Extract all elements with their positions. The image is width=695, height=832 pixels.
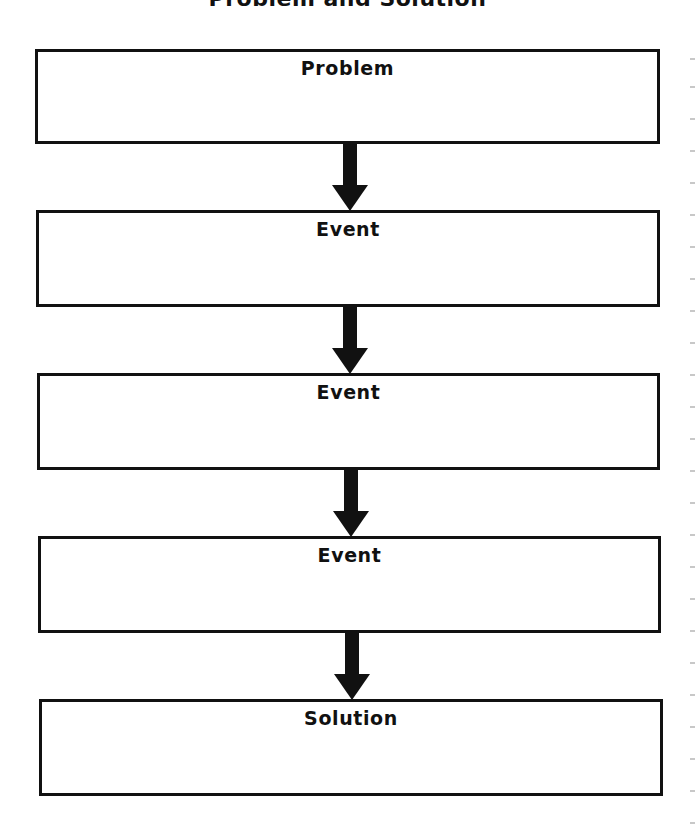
problem-box[interactable]: Problem [35,49,660,144]
page-title: Problem and Solution [0,0,695,12]
event-label-1: Event [39,217,657,241]
solution-label: Solution [42,706,660,730]
event-label-3: Event [41,543,658,567]
problem-content[interactable] [46,86,649,135]
down-arrow-icon [332,144,368,211]
scan-edge-marks [689,0,695,832]
event-box-1[interactable]: Event [36,210,660,307]
down-arrow-icon [333,470,369,537]
event-content-2[interactable] [48,410,649,461]
down-arrow-icon [334,633,370,700]
problem-label: Problem [38,56,657,80]
event-content-1[interactable] [47,247,649,298]
down-arrow-icon [332,307,368,374]
solution-content[interactable] [50,736,652,787]
event-content-3[interactable] [49,573,650,624]
event-label-2: Event [40,380,657,404]
event-box-2[interactable]: Event [37,373,660,470]
event-box-3[interactable]: Event [38,536,661,633]
solution-box[interactable]: Solution [39,699,663,796]
